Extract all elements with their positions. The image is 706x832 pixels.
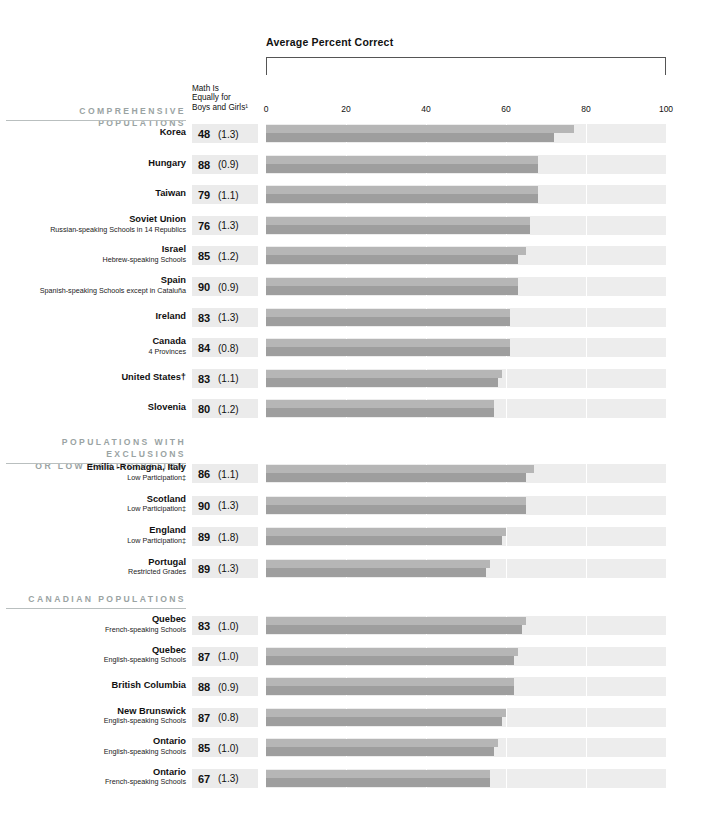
value-column-header-line-2: Equally for	[192, 93, 258, 102]
row-label-name: Emilia -Romagna, Italy	[0, 463, 186, 472]
bar-track	[266, 124, 666, 143]
value-cell: 67(1.3)	[192, 769, 258, 788]
gridline-80	[586, 769, 587, 788]
axis-tick-40: 40	[421, 104, 430, 114]
bar-girls	[266, 717, 502, 726]
bar-boys	[266, 678, 514, 686]
section-header-line: COMPREHENSIVE POPULATIONS	[0, 105, 186, 129]
row-label-sublabel: 4 Provinces	[0, 348, 186, 355]
value-standard-error: (1.0)	[218, 621, 239, 632]
value-cell: 88(0.9)	[192, 155, 258, 174]
value-percent: 84	[198, 342, 210, 354]
row-label: Canada4 Provinces	[0, 337, 186, 355]
value-percent: 83	[198, 620, 210, 632]
section-divider-canadian	[6, 608, 186, 609]
row-label: New BrunswickEnglish-speaking Schools	[0, 707, 186, 725]
bar-boys	[266, 560, 490, 568]
bar-boys	[266, 648, 518, 656]
value-standard-error: (1.3)	[218, 129, 239, 140]
row-label-name: Quebec	[0, 646, 186, 655]
bar-track	[266, 647, 666, 666]
axis-bracket	[266, 57, 666, 75]
row-label: Hungary	[0, 159, 186, 168]
row-label: Korea	[0, 128, 186, 137]
chart-container: Average Percent Correct Math Is Equally …	[0, 0, 706, 832]
bar-girls	[266, 568, 486, 577]
bar-boys	[266, 770, 490, 778]
value-standard-error: (1.1)	[218, 469, 239, 480]
value-standard-error: (1.3)	[218, 500, 239, 511]
row-label-sublabel: Spanish-speaking Schools except in Catal…	[0, 287, 186, 294]
value-percent: 83	[198, 312, 210, 324]
bar-track	[266, 277, 666, 296]
gridline-80	[586, 155, 587, 174]
bar-girls	[266, 686, 514, 695]
value-standard-error: (1.2)	[218, 251, 239, 262]
row-label: IsraelHebrew-speaking Schools	[0, 245, 186, 263]
gridline-80	[586, 464, 587, 483]
value-standard-error: (0.9)	[218, 682, 239, 693]
bar-girls	[266, 747, 494, 756]
row-label-sublabel: Restricted Grades	[0, 568, 186, 575]
gridline-80	[586, 399, 587, 418]
section-header-line: CANADIAN POPULATIONS	[0, 593, 186, 605]
row-label-name: New Brunswick	[0, 707, 186, 716]
value-cell: 48(1.3)	[192, 124, 258, 143]
bar-boys	[266, 400, 494, 408]
gridline-80	[586, 338, 587, 357]
value-standard-error: (1.8)	[218, 532, 239, 543]
value-standard-error: (1.1)	[218, 373, 239, 384]
value-percent: 67	[198, 773, 210, 785]
gridline-60	[506, 369, 507, 388]
value-cell: 80(1.2)	[192, 399, 258, 418]
value-standard-error: (0.8)	[218, 712, 239, 723]
gridline-60	[506, 738, 507, 757]
value-standard-error: (0.9)	[218, 282, 239, 293]
gridline-60	[506, 559, 507, 578]
section-header-canadian: CANADIAN POPULATIONS	[0, 593, 186, 605]
gridline-80	[586, 216, 587, 235]
row-label-name: Spain	[0, 276, 186, 285]
gridline-80	[586, 559, 587, 578]
row-label-name: Scotland	[0, 495, 186, 504]
row-label-name: Slovenia	[0, 403, 186, 412]
row-label: ScotlandLow Participation‡	[0, 495, 186, 513]
bar-track	[266, 708, 666, 727]
gridline-80	[586, 277, 587, 296]
bar-boys	[266, 339, 510, 347]
row-label: EnglandLow Participation‡	[0, 526, 186, 544]
bar-boys	[266, 278, 518, 286]
value-standard-error: (1.3)	[218, 773, 239, 784]
row-label-name: Soviet Union	[0, 215, 186, 224]
bar-girls	[266, 408, 494, 417]
bar-track	[266, 738, 666, 757]
row-label-sublabel: Low Participation‡	[0, 474, 186, 481]
value-percent: 48	[198, 128, 210, 140]
row-label-name: British Columbia	[0, 681, 186, 690]
value-cell: 86(1.1)	[192, 464, 258, 483]
gridline-80	[586, 185, 587, 204]
bar-track	[266, 155, 666, 174]
row-label: OntarioEnglish-speaking Schools	[0, 737, 186, 755]
row-label-name: Hungary	[0, 159, 186, 168]
value-cell: 89(1.3)	[192, 559, 258, 578]
row-label: Taiwan	[0, 189, 186, 198]
row-label: OntarioFrench-speaking Schools	[0, 768, 186, 786]
row-label: United States†	[0, 373, 186, 382]
value-cell: 83(1.3)	[192, 308, 258, 327]
value-percent: 90	[198, 281, 210, 293]
value-cell: 83(1.0)	[192, 616, 258, 635]
value-standard-error: (1.2)	[218, 404, 239, 415]
row-label: QuebecEnglish-speaking Schools	[0, 646, 186, 664]
bar-boys	[266, 186, 538, 194]
bar-track	[266, 369, 666, 388]
bar-track	[266, 496, 666, 515]
bar-track	[266, 559, 666, 578]
bar-girls	[266, 225, 530, 234]
value-cell: 83(1.1)	[192, 369, 258, 388]
value-percent: 87	[198, 651, 210, 663]
bar-boys	[266, 125, 574, 133]
value-cell: 76(1.3)	[192, 216, 258, 235]
bar-track	[266, 246, 666, 265]
value-percent: 79	[198, 189, 210, 201]
